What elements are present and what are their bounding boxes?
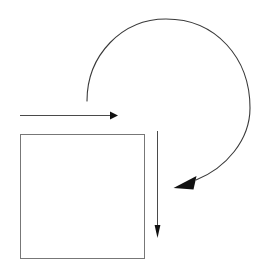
background-rect <box>0 0 266 273</box>
diagram-canvas <box>0 0 266 273</box>
diagram-svg <box>0 0 266 273</box>
